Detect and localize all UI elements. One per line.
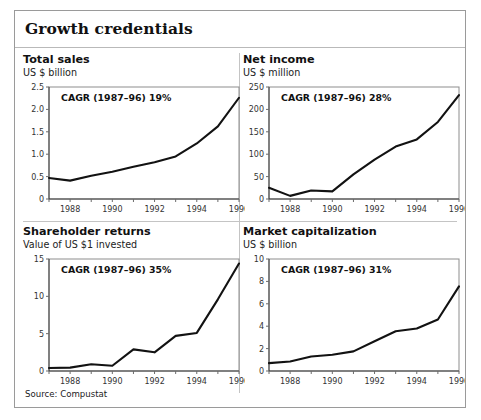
row-divider [23, 221, 457, 222]
svg-text:5: 5 [39, 330, 44, 339]
svg-text:1994: 1994 [407, 205, 427, 214]
source-note: Source: Compustat [25, 389, 107, 399]
svg-text:1990: 1990 [322, 377, 342, 386]
svg-text:1.5: 1.5 [31, 128, 44, 137]
chart-subtitle: US $ million [243, 67, 300, 78]
svg-text:1988: 1988 [60, 377, 80, 386]
chart-plot-area: 05010015020025019881990199219941996CAGR … [243, 81, 465, 221]
chart-title: Shareholder returns [23, 225, 151, 238]
exhibit-container: Growth credentials Total sales US $ bill… [14, 10, 466, 408]
svg-text:2.5: 2.5 [31, 83, 44, 92]
svg-text:1988: 1988 [280, 377, 300, 386]
svg-text:150: 150 [249, 128, 264, 137]
svg-text:1992: 1992 [144, 205, 164, 214]
svg-text:2.0: 2.0 [31, 105, 44, 114]
svg-text:0.5: 0.5 [31, 173, 44, 182]
svg-text:2: 2 [259, 345, 264, 354]
svg-text:1990: 1990 [322, 205, 342, 214]
svg-text:1992: 1992 [364, 205, 384, 214]
chart-plot-area: 024681019881990199219941996CAGR (1987–96… [243, 253, 465, 393]
svg-text:1992: 1992 [364, 377, 384, 386]
chart-plot-area: 05101519881990199219941996CAGR (1987–96)… [23, 253, 245, 393]
title-divider [15, 47, 465, 48]
svg-text:1990: 1990 [102, 377, 122, 386]
page-title: Growth credentials [25, 19, 193, 38]
svg-text:15: 15 [34, 255, 44, 264]
svg-text:1988: 1988 [280, 205, 300, 214]
svg-text:6: 6 [259, 300, 264, 309]
chart-panel-shareholder-returns: Shareholder returns Value of US $1 inves… [23, 225, 245, 393]
svg-text:1.0: 1.0 [31, 150, 44, 159]
svg-text:200: 200 [249, 105, 264, 114]
svg-text:100: 100 [249, 150, 264, 159]
chart-panel-market-capitalization: Market capitalization US $ billion 02468… [243, 225, 465, 393]
svg-text:1992: 1992 [144, 377, 164, 386]
svg-text:0: 0 [259, 367, 264, 376]
chart-title: Total sales [23, 53, 90, 66]
chart-panel-net-income: Net income US $ million 0501001502002501… [243, 53, 465, 221]
svg-text:CAGR (1987–96) 35%: CAGR (1987–96) 35% [61, 264, 172, 275]
svg-text:1994: 1994 [187, 205, 207, 214]
svg-text:1996: 1996 [449, 377, 465, 386]
chart-subtitle: Value of US $1 invested [23, 239, 137, 250]
svg-text:8: 8 [259, 277, 264, 286]
svg-text:0: 0 [259, 195, 264, 204]
svg-text:0: 0 [39, 367, 44, 376]
svg-text:CAGR (1987–96) 28%: CAGR (1987–96) 28% [281, 92, 392, 103]
svg-text:1994: 1994 [187, 377, 207, 386]
chart-panel-total-sales: Total sales US $ billion 00.51.01.52.02.… [23, 53, 245, 221]
svg-text:10: 10 [254, 255, 264, 264]
svg-text:1996: 1996 [449, 205, 465, 214]
svg-text:250: 250 [249, 83, 264, 92]
svg-text:1994: 1994 [407, 377, 427, 386]
svg-text:0: 0 [39, 195, 44, 204]
svg-text:10: 10 [34, 292, 44, 301]
chart-plot-area: 00.51.01.52.02.519881990199219941996CAGR… [23, 81, 245, 221]
svg-text:1990: 1990 [102, 205, 122, 214]
svg-text:4: 4 [259, 322, 264, 331]
svg-text:50: 50 [254, 173, 264, 182]
chart-subtitle: US $ billion [243, 239, 297, 250]
chart-title: Net income [243, 53, 315, 66]
svg-text:CAGR (1987–96) 31%: CAGR (1987–96) 31% [281, 264, 392, 275]
chart-subtitle: US $ billion [23, 67, 77, 78]
chart-title: Market capitalization [243, 225, 377, 238]
svg-text:1988: 1988 [60, 205, 80, 214]
svg-text:CAGR (1987–96) 19%: CAGR (1987–96) 19% [61, 92, 172, 103]
